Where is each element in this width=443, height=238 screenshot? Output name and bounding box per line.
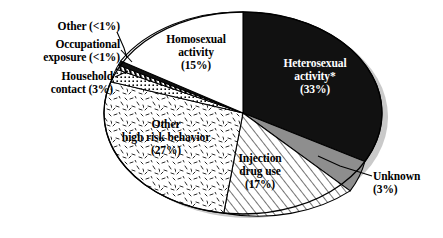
label-injection-line2: drug use: [239, 165, 281, 177]
label-household-line1: Household: [61, 70, 113, 82]
label-other: Other (<1%): [8, 20, 120, 33]
label-other-high-risk-line2: high risk behavior: [122, 131, 210, 143]
label-heterosexual-activity: Heterosexual activity* (33%): [262, 57, 368, 96]
label-other-high-risk-line1: Other: [152, 118, 181, 130]
label-homosexual-line1: Homosexual: [166, 33, 226, 45]
label-unknown: Unknown (3%): [373, 170, 441, 196]
label-occupational-exposure: Occupational exposure (<1%): [0, 38, 120, 64]
label-injection-value: (17%): [245, 178, 275, 190]
label-other-high-risk-behavior: Other high risk behavior (27%): [104, 118, 228, 157]
label-injection-drug-use: Injection drug use (17%): [219, 152, 301, 191]
label-homosexual-line2: activity: [178, 46, 214, 58]
label-household-contact: Household contact (3%): [0, 70, 113, 96]
label-other-high-risk-value: (27%): [151, 144, 181, 156]
label-unknown-value: (3%): [373, 183, 398, 195]
label-injection-line1: Injection: [238, 152, 281, 164]
label-occupational-line2: exposure (<1%): [43, 51, 120, 63]
label-household-line2: contact (3%): [51, 83, 113, 95]
pie-chart: Other (<1%) Occupational exposure (<1%) …: [0, 0, 443, 238]
label-heterosexual-line2: activity*: [294, 70, 335, 82]
label-other-line1: Other (<1%): [58, 20, 120, 32]
label-heterosexual-value: (33%): [300, 83, 330, 95]
label-occupational-line1: Occupational: [55, 38, 120, 50]
label-unknown-line1: Unknown: [373, 170, 420, 182]
label-homosexual-value: (15%): [181, 59, 211, 71]
label-heterosexual-line1: Heterosexual: [283, 57, 346, 69]
label-homosexual-activity: Homosexual activity (15%): [148, 33, 244, 72]
